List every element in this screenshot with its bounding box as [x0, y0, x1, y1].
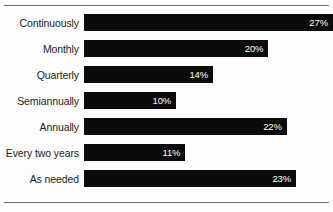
bar-value-label: 20% [245, 43, 264, 54]
bar-value-label: 27% [309, 17, 328, 28]
category-label: Quarterly [0, 69, 84, 81]
category-label: Monthly [0, 43, 84, 55]
category-label: As needed [0, 173, 84, 185]
bar-track: 11% [84, 144, 333, 161]
bar-semiannually: 10% [84, 92, 176, 109]
top-divider-rule [4, 5, 329, 6]
chart-row: Annually 22% [0, 118, 333, 135]
chart-row: Semiannually 10% [0, 92, 333, 109]
bar-quarterly: 14% [84, 66, 213, 83]
chart-row: Quarterly 14% [0, 66, 333, 83]
bar-value-label: 11% [162, 147, 180, 158]
category-label: Semiannually [0, 95, 84, 107]
chart-row: Continuously 27% [0, 14, 333, 31]
bar-track: 23% [84, 170, 333, 187]
bar-chart: Continuously 27% Monthly 20% Quarterly 1… [0, 0, 333, 212]
bar-as-needed: 23% [84, 170, 296, 187]
category-label: Every two years [0, 147, 84, 159]
bar-value-label: 10% [153, 95, 172, 106]
chart-row: Monthly 20% [0, 40, 333, 57]
bar-value-label: 14% [189, 69, 208, 80]
bar-track: 10% [84, 92, 333, 109]
bar-value-label: 22% [263, 121, 282, 132]
category-label: Continuously [0, 17, 84, 29]
bar-track: 22% [84, 118, 333, 135]
bar-track: 20% [84, 40, 333, 57]
bar-annually: 22% [84, 118, 287, 135]
bar-every-two-years: 11% [84, 144, 185, 161]
chart-plot-area: Continuously 27% Monthly 20% Quarterly 1… [0, 14, 333, 199]
bar-monthly: 20% [84, 40, 268, 57]
bar-continuously: 27% [84, 14, 333, 31]
bar-value-label: 23% [272, 173, 291, 184]
chart-row: Every two years 11% [0, 144, 333, 161]
bar-track: 14% [84, 66, 333, 83]
bar-track: 27% [84, 14, 333, 31]
bottom-divider-rule [4, 202, 329, 203]
category-label: Annually [0, 121, 84, 133]
chart-row: As needed 23% [0, 170, 333, 187]
